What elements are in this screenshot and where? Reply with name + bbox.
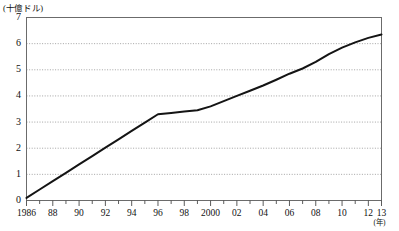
- plot-area: [0, 0, 399, 231]
- chart-container: (十億ドル) 01234567 198688909294969820000204…: [0, 0, 399, 231]
- data-line-series-0: [27, 34, 382, 197]
